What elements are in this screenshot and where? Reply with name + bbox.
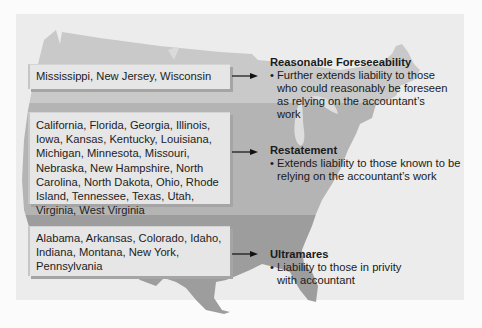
rule-title: Reasonable Foreseeability [270,56,470,69]
bullet-icon: • [270,69,277,121]
rule-bullet: • Extends liability to those known to be… [270,157,470,183]
arrow-right-icon [232,250,258,258]
state-list-box-restatement: California, Florida, Georgia, Illinois, … [28,112,230,204]
state-list-text: Mississippi, New Jersey, Wisconsin [36,70,211,82]
state-list-text: California, Florida, Georgia, Illinois, … [36,119,219,216]
bullet-icon: • [270,261,277,287]
rule-title: Restatement [270,144,470,157]
rule-description: Liability to those in privity with accou… [277,261,405,287]
arrow-right-icon [232,148,258,156]
state-list-box-foreseeability: Mississippi, New Jersey, Wisconsin [28,64,230,89]
rule-title: Ultramares [270,248,470,261]
rule-bullet: • Further extends liability to those who… [270,69,470,121]
rule-restatement: Restatement • Extends liability to those… [270,144,470,183]
state-list-box-ultramares: Alabama, Arkansas, Colorado, Idaho, Indi… [28,226,230,276]
arrow-right-icon [232,72,258,80]
rule-ultramares: Ultramares • Liability to those in privi… [270,248,470,287]
rule-bullet: • Liability to those in privity with acc… [270,261,470,287]
rule-description: Further extends liability to those who c… [277,69,449,121]
rule-reasonable-foreseeability: Reasonable Foreseeability • Further exte… [270,56,470,121]
state-list-text: Alabama, Arkansas, Colorado, Idaho, Indi… [36,232,221,272]
rule-description: Extends liability to those known to be r… [277,157,467,183]
bullet-icon: • [270,157,277,183]
